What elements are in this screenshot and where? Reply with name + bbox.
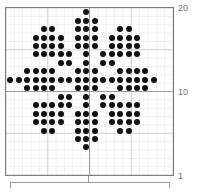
scatter-point	[92, 77, 98, 83]
scatter-point	[33, 77, 39, 83]
scatter-point	[7, 77, 13, 83]
scatter-point	[134, 85, 140, 91]
scatter-point	[41, 26, 47, 32]
scatter-point	[33, 85, 39, 91]
scatter-point	[92, 26, 98, 32]
scatter-point	[24, 68, 30, 74]
scatter-point	[75, 77, 81, 83]
scatter-point	[41, 35, 47, 41]
scatter-point	[83, 9, 89, 15]
scatter-point	[24, 77, 30, 83]
scatter-point	[83, 60, 89, 66]
scatter-point	[33, 43, 39, 49]
scatter-point	[117, 26, 123, 32]
scatter-point	[92, 85, 98, 91]
scatter-point	[58, 119, 64, 125]
x-axis-center-tick	[88, 176, 89, 183]
scatter-point	[83, 102, 89, 108]
scatter-point	[83, 119, 89, 125]
scatter-point	[49, 111, 55, 117]
scatter-point	[83, 26, 89, 32]
scatter-point	[75, 68, 81, 74]
scatter-point	[142, 68, 148, 74]
scatter-point	[58, 77, 64, 83]
scatter-point	[109, 102, 115, 108]
scatter-point	[109, 94, 115, 100]
scatter-point	[100, 94, 106, 100]
scatter-point	[66, 51, 72, 57]
scatter-point	[151, 77, 157, 83]
scatter-point	[66, 77, 72, 83]
scatter-point	[92, 111, 98, 117]
figure-root: 20 10 1	[0, 0, 199, 192]
scatter-point	[58, 94, 64, 100]
scatter-point	[92, 43, 98, 49]
scatter-point	[100, 60, 106, 66]
scatter-point	[142, 85, 148, 91]
y-tick-label-10: 10	[178, 87, 188, 97]
scatter-point	[83, 128, 89, 134]
scatter-point	[75, 128, 81, 134]
scatter-point	[83, 111, 89, 117]
scatter-point	[41, 51, 47, 57]
scatter-point	[92, 35, 98, 41]
scatter-point	[92, 128, 98, 134]
scatter-point	[126, 85, 132, 91]
scatter-point	[109, 60, 115, 66]
scatter-point	[117, 68, 123, 74]
scatter-point	[49, 35, 55, 41]
scatter-point	[92, 68, 98, 74]
y-tick-label-1: 1	[178, 171, 183, 181]
scatter-point	[83, 136, 89, 142]
scatter-point	[58, 51, 64, 57]
scatter-point	[75, 136, 81, 142]
scatter-point	[117, 77, 123, 83]
scatter-point	[41, 119, 47, 125]
scatter-point	[16, 77, 22, 83]
scatter-point	[117, 111, 123, 117]
scatter-point	[49, 26, 55, 32]
scatter-point	[41, 68, 47, 74]
scatter-point	[109, 119, 115, 125]
scatter-point	[117, 35, 123, 41]
scatter-point	[58, 35, 64, 41]
scatter-point	[83, 51, 89, 57]
scatter-point	[109, 51, 115, 57]
scatter-point	[117, 51, 123, 57]
scatter-point	[126, 35, 132, 41]
scatter-point	[100, 102, 106, 108]
scatter-point	[134, 35, 140, 41]
scatter-point	[126, 26, 132, 32]
scatter-point	[126, 77, 132, 83]
plot-area	[5, 7, 174, 176]
scatter-point	[92, 18, 98, 24]
x-axis-bracket	[10, 182, 170, 188]
scatter-point	[75, 111, 81, 117]
scatter-point	[83, 43, 89, 49]
scatter-point	[66, 102, 72, 108]
scatter-point	[58, 111, 64, 117]
scatter-point	[134, 68, 140, 74]
scatter-point	[75, 85, 81, 91]
scatter-point	[49, 68, 55, 74]
scatter-point	[49, 77, 55, 83]
y-tick-label-20: 20	[178, 3, 188, 13]
scatter-point	[49, 43, 55, 49]
scatter-point	[41, 77, 47, 83]
scatter-point	[126, 51, 132, 57]
scatter-point	[126, 128, 132, 134]
scatter-point	[83, 35, 89, 41]
scatter-point	[83, 94, 89, 100]
scatter-point	[33, 68, 39, 74]
scatter-point	[58, 102, 64, 108]
scatter-point	[117, 102, 123, 108]
scatter-point	[117, 128, 123, 134]
scatter-point	[75, 18, 81, 24]
scatter-point	[33, 119, 39, 125]
scatter-point	[75, 35, 81, 41]
scatter-point	[49, 119, 55, 125]
scatter-point	[41, 43, 47, 49]
scatter-point	[142, 77, 148, 83]
scatter-point	[126, 68, 132, 74]
scatter-point	[134, 43, 140, 49]
